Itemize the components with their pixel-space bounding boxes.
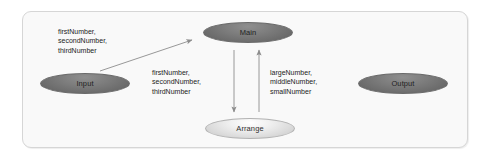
- edge-label-line: middleNumber,: [270, 77, 317, 86]
- diagram-canvas: Main Input Output Arrange firstNumber, s…: [0, 0, 491, 159]
- edge-label-line: largeNumber,: [270, 68, 317, 77]
- edge-label-line: secondNumber,: [152, 77, 201, 86]
- node-input[interactable]: Input: [40, 73, 130, 94]
- edge-label-line: firstNumber,: [152, 68, 201, 77]
- edge-label-line: smallNumber: [270, 87, 317, 96]
- edge-label-line: firstNumber,: [58, 27, 107, 36]
- edge-label-main-to-arrange: firstNumber, secondNumber, thirdNumber: [152, 68, 201, 96]
- node-arrange[interactable]: Arrange: [205, 118, 295, 139]
- node-main-label: Main: [240, 28, 257, 37]
- node-arrange-label: Arrange: [236, 124, 263, 133]
- node-input-label: Input: [76, 79, 93, 88]
- edge-label-arrange-to-main: largeNumber, middleNumber, smallNumber: [270, 68, 317, 96]
- edge-label-line: secondNumber,: [58, 36, 107, 45]
- node-main[interactable]: Main: [203, 22, 293, 43]
- node-output-label: Output: [391, 79, 414, 88]
- edge-label-input-to-main: firstNumber, secondNumber, thirdNumber: [58, 27, 107, 55]
- node-output[interactable]: Output: [358, 73, 448, 94]
- edge-label-line: thirdNumber: [58, 46, 107, 55]
- edge-label-line: thirdNumber: [152, 87, 201, 96]
